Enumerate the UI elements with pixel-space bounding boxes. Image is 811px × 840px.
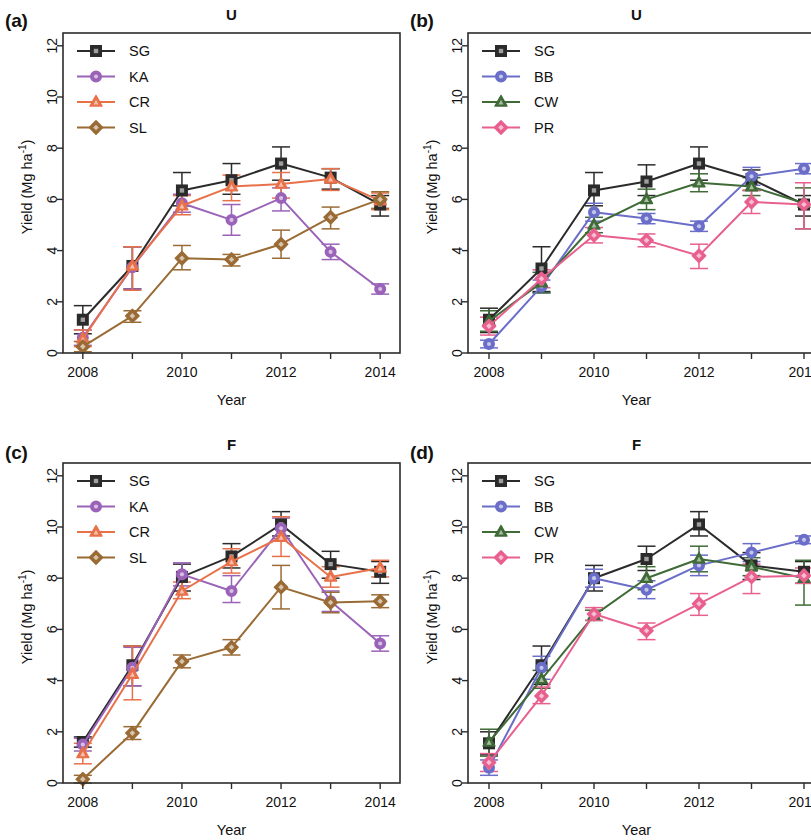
legend-c: SGKACRSL <box>77 473 150 566</box>
legend-label-CW: CW <box>534 524 558 540</box>
panel-a-plot: 0246810122008201020122014SGKACRSL <box>0 0 405 420</box>
y-tick-label: 2 <box>449 728 465 736</box>
legend-label-KA: KA <box>129 499 149 515</box>
legend-label-BB: BB <box>534 499 553 515</box>
y-tick-label: 4 <box>449 676 465 684</box>
legend-label-PR: PR <box>534 120 554 136</box>
y-tick-label: 4 <box>44 246 60 254</box>
x-tick-label: 2012 <box>683 364 714 380</box>
y-tick-label: 8 <box>44 574 60 582</box>
y-tick-label: 12 <box>449 468 465 484</box>
legend-label-SL: SL <box>129 120 147 136</box>
panel-b: (b) U Yield (Mg ha-1) Year 0246810122008… <box>405 0 811 420</box>
y-tick-label: 8 <box>449 574 465 582</box>
y-tick-label: 0 <box>449 779 465 787</box>
y-tick-label: 8 <box>449 144 465 152</box>
y-tick-label: 2 <box>44 298 60 306</box>
y-tick-label: 4 <box>449 246 465 254</box>
y-tick-label: 0 <box>449 349 465 357</box>
x-tick-label: 2014 <box>788 364 811 380</box>
legend-label-SG: SG <box>534 473 555 489</box>
y-tick-label: 12 <box>449 38 465 54</box>
x-tick-label: 2014 <box>788 794 811 810</box>
errorbars-BB <box>480 536 811 775</box>
figure-root: (a) U Yield (Mg ha-1) Year 0246810122008… <box>0 0 811 840</box>
y-tick-label: 10 <box>449 89 465 105</box>
y-tick-label: 2 <box>449 298 465 306</box>
x-tick-label: 2010 <box>166 364 197 380</box>
y-tick-label: 10 <box>449 519 465 535</box>
x-tick-label: 2012 <box>265 794 296 810</box>
legend-label-SG: SG <box>129 473 150 489</box>
panel-a: (a) U Yield (Mg ha-1) Year 0246810122008… <box>0 0 405 420</box>
legend-label-SG: SG <box>129 43 150 59</box>
x-tick-label: 2010 <box>578 794 609 810</box>
errorbars-SG <box>74 512 389 748</box>
x-tick-label: 2014 <box>365 364 396 380</box>
x-tick-label: 2008 <box>473 364 504 380</box>
x-tick-label: 2012 <box>683 794 714 810</box>
x-tick-label: 2014 <box>365 794 396 810</box>
y-tick-label: 2 <box>44 728 60 736</box>
legend-label-CW: CW <box>534 94 558 110</box>
series-markers-CW <box>483 553 810 747</box>
panel-b-plot: 0246810122008201020122014SGBBCWPR <box>405 0 811 420</box>
y-tick-label: 8 <box>44 144 60 152</box>
series-markers-SG <box>78 519 386 747</box>
errorbars-BB <box>480 164 811 348</box>
panel-d: (d) F Yield (Mg ha-1) Year 0246810122008… <box>405 420 811 840</box>
y-tick-label: 12 <box>44 468 60 484</box>
legend-label-PR: PR <box>534 550 554 566</box>
y-tick-label: 12 <box>44 38 60 54</box>
panel-c-plot: 0246810122008201020122014SGKACRSL <box>0 420 405 840</box>
panel-c: (c) F Yield (Mg ha-1) Year 0246810122008… <box>0 420 405 840</box>
y-tick-label: 6 <box>44 625 60 633</box>
legend-label-BB: BB <box>534 69 553 85</box>
series-markers-CW <box>483 176 810 325</box>
legend-label-KA: KA <box>129 69 149 85</box>
y-tick-label: 0 <box>44 349 60 357</box>
legend-d: SGBBCWPR <box>482 473 558 566</box>
y-tick-label: 10 <box>44 519 60 535</box>
legend-label-SG: SG <box>534 43 555 59</box>
x-tick-label: 2012 <box>265 364 296 380</box>
x-tick-label: 2010 <box>578 364 609 380</box>
x-tick-label: 2010 <box>166 794 197 810</box>
x-tick-label: 2008 <box>67 794 98 810</box>
y-tick-label: 0 <box>44 779 60 787</box>
legend-b: SGBBCWPR <box>482 43 558 136</box>
legend-label-SL: SL <box>129 550 147 566</box>
y-tick-label: 10 <box>44 89 60 105</box>
panel-d-plot: 0246810122008201020122014SGBBCWPR <box>405 420 811 840</box>
y-tick-label: 4 <box>44 676 60 684</box>
x-tick-label: 2008 <box>67 364 98 380</box>
legend-label-CR: CR <box>129 94 150 110</box>
y-tick-label: 6 <box>449 195 465 203</box>
y-tick-label: 6 <box>44 195 60 203</box>
errorbars-PR <box>480 183 811 335</box>
y-tick-label: 6 <box>449 625 465 633</box>
x-tick-label: 2008 <box>473 794 504 810</box>
legend-a: SGKACRSL <box>77 43 150 136</box>
legend-label-CR: CR <box>129 524 150 540</box>
